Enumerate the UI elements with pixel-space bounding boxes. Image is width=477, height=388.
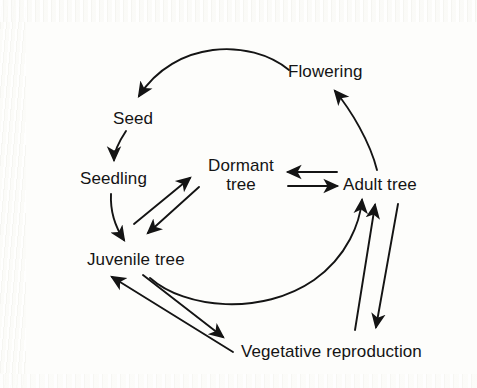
edge-flowering-to-seed — [139, 49, 289, 96]
node-label-dormant-tree-line1: Dormant — [203, 156, 279, 175]
edge-adult-tree-to-flowering — [335, 91, 377, 170]
node-label-vegetative-reproduction: Vegetative reproduction — [241, 342, 422, 361]
figure-canvas: Seed Seedling Juvenile tree Dormant tree… — [0, 0, 477, 388]
node-label-juvenile-tree: Juvenile tree — [87, 250, 185, 269]
edge-juvenile-tree-to-vegetative-reproduction — [143, 275, 223, 337]
edge-seed-to-seedling — [114, 131, 126, 160]
life-cycle-arrow-layer — [0, 0, 477, 388]
node-label-dormant-tree-line2: tree — [203, 175, 279, 194]
node-label-seed: Seed — [113, 109, 153, 128]
node-label-adult-tree: Adult tree — [343, 175, 417, 194]
edge-vegetative-reproduction-to-adult-tree — [355, 205, 375, 330]
node-label-flowering: Flowering — [288, 62, 363, 81]
edge-adult-tree-to-vegetative-reproduction — [376, 204, 398, 327]
node-label-dormant-tree: Dormant tree — [203, 156, 279, 194]
edge-seedling-to-juvenile-tree — [111, 194, 124, 240]
edge-dormant-tree-to-juvenile-tree — [148, 187, 199, 233]
edge-vegetative-reproduction-to-juvenile-tree — [112, 277, 233, 352]
node-label-seedling: Seedling — [80, 169, 147, 188]
